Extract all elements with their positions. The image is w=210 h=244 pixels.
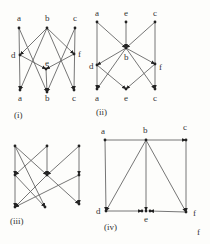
node-f — [185, 211, 188, 214]
node-label-b_bot: b — [45, 93, 50, 103]
graph-diagrams-figure: abcdefabc(i) aecbdfaec(ii) (iii) abcdef(… — [0, 0, 210, 244]
node-f — [73, 53, 76, 56]
diagram-caption: (ii) — [96, 107, 107, 117]
stray-label: f — [197, 227, 200, 237]
node-t1 — [14, 145, 17, 148]
node-e_top — [125, 21, 128, 24]
node-label-a: a — [101, 126, 105, 136]
node-e — [45, 68, 48, 71]
edge-b-f — [146, 140, 186, 212]
node-a_bot — [19, 89, 22, 92]
node-d — [105, 210, 108, 213]
edge-b_top-a_bot — [20, 28, 47, 90]
edge-c_top-c_bot — [74, 28, 75, 90]
diagram-ii: aecbdfaec(ii) — [89, 8, 162, 117]
node-b1 — [14, 206, 17, 209]
node-label-d: d — [11, 50, 16, 60]
edge-a-d — [105, 140, 106, 211]
node-c_top — [154, 21, 157, 24]
diagram-iii: (iii) — [10, 145, 80, 226]
node-label-f: f — [193, 208, 196, 218]
node-e_bot — [125, 88, 128, 91]
diagram-caption: (iii) — [10, 216, 24, 226]
edge-f-e3 — [150, 211, 186, 212]
edge-t3-m2 — [47, 146, 79, 175]
node-label-b_top: b — [45, 13, 50, 23]
node-label-d: d — [89, 61, 94, 71]
node-label-c_top: c — [73, 13, 77, 23]
node-label-d: d — [96, 206, 101, 216]
node-label-e2: e — [144, 214, 148, 224]
node-b2 — [44, 206, 47, 209]
node-label-a_bot: a — [18, 93, 22, 103]
edge-m2-b3 — [47, 175, 79, 204]
node-a — [104, 139, 107, 142]
node-label-e_bot: e — [124, 93, 128, 103]
node-a_bot — [96, 88, 99, 91]
diagram-caption: (iv) — [104, 222, 117, 232]
node-label-b: b — [143, 125, 148, 135]
node-label-e: e — [45, 58, 49, 68]
edge-t1-b2 — [15, 146, 45, 207]
node-label-f: f — [159, 62, 162, 72]
node-c_top — [74, 27, 77, 30]
node-label-c_bot: c — [72, 93, 76, 103]
edge-b_top-c_bot — [47, 28, 74, 90]
diagram-i: abcdefabc(i) — [11, 13, 81, 120]
edge-b_top-f — [47, 28, 74, 54]
node-a_top — [18, 27, 21, 30]
node-label-f: f — [78, 49, 81, 59]
node-f — [154, 63, 157, 66]
diagram-iv: abcdef(iv)f — [96, 122, 200, 237]
node-m2 — [46, 174, 49, 177]
edge-a_top-a_bot — [19, 28, 20, 90]
edge-c_top-b — [126, 22, 155, 48]
edge-b-f — [126, 48, 155, 64]
node-b — [145, 139, 148, 142]
edge-a_top-b — [97, 22, 126, 48]
node-c — [185, 139, 188, 142]
edge-b_top-d — [20, 28, 47, 55]
edge-b-c_bot — [126, 48, 155, 89]
node-a_top — [96, 21, 99, 24]
node-label-c_top: c — [153, 8, 157, 18]
node-b3 — [78, 203, 81, 206]
node-label-c: c — [183, 122, 187, 132]
node-m1 — [14, 174, 17, 177]
node-label-a_bot: a — [95, 93, 99, 103]
node-e1 — [141, 210, 144, 213]
node-b_top — [46, 27, 49, 30]
node-c_bot — [73, 89, 76, 92]
node-d — [96, 64, 99, 67]
node-c_bot — [154, 88, 157, 91]
edge-m3-b1 — [15, 175, 79, 207]
node-d — [19, 54, 22, 57]
diagram-caption: (i) — [14, 110, 23, 120]
edge-b-d — [106, 140, 146, 211]
node-label-c_bot: c — [153, 93, 157, 103]
edge-b-d — [97, 48, 126, 65]
node-m3 — [78, 174, 81, 177]
node-e2 — [145, 210, 148, 213]
node-label-a_top: a — [17, 13, 21, 23]
node-t3 — [78, 145, 81, 148]
node-label-a_top: a — [95, 8, 99, 18]
node-label-b: b — [124, 52, 129, 62]
edge-e-b_bot — [46, 69, 47, 92]
node-e3 — [149, 210, 152, 213]
node-t2 — [46, 145, 49, 148]
edge-f-e — [46, 54, 74, 69]
edge-d-e — [20, 55, 46, 69]
node-b — [125, 47, 128, 50]
node-label-e_top: e — [124, 8, 128, 18]
